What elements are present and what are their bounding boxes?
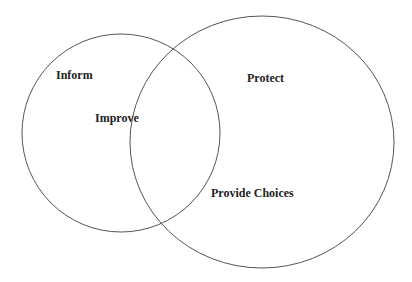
venn-diagram <box>0 0 412 282</box>
label-inform: Inform <box>56 69 93 81</box>
right-set-circle <box>130 16 394 268</box>
label-provide-choices: Provide Choices <box>211 187 294 199</box>
label-protect: Protect <box>247 72 284 84</box>
label-improve: Improve <box>95 112 139 124</box>
left-set-circle <box>22 34 220 232</box>
